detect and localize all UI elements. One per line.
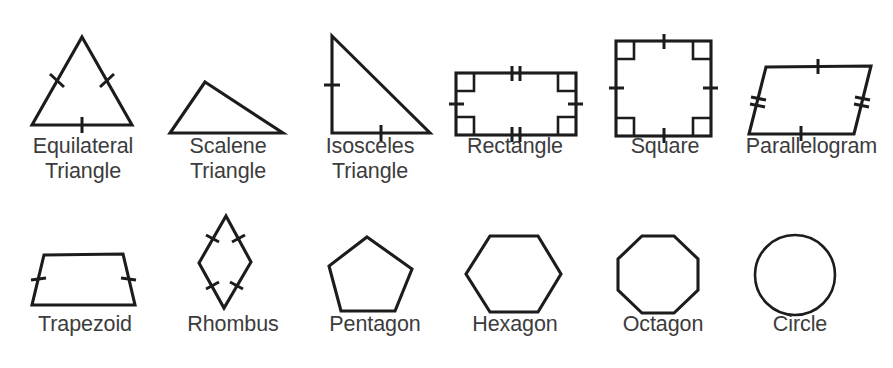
label-parallelogram: Parallelogram [730, 134, 893, 159]
pentagon-glyph [322, 230, 420, 318]
label-hexagon: Hexagon [450, 312, 580, 337]
isosceles-triangle-glyph [312, 24, 442, 139]
shape-trapezoid [20, 244, 150, 319]
octagon-glyph [610, 228, 712, 320]
hexagon-glyph [458, 228, 568, 320]
shapes-chart: Equilateral Triangle Scalene Triangle Is… [0, 0, 893, 368]
label-octagon: Octagon [598, 312, 728, 337]
shape-rhombus [185, 206, 275, 318]
square-glyph [604, 30, 724, 145]
label-rectangle: Rectangle [440, 134, 590, 159]
shape-octagon [610, 228, 712, 320]
shape-isosceles-triangle [312, 24, 442, 139]
shape-hexagon [458, 228, 568, 320]
shape-pentagon [322, 230, 420, 318]
trapezoid-glyph [20, 244, 150, 319]
label-isosceles-triangle: Isosceles Triangle [300, 134, 440, 184]
rectangle-glyph [446, 62, 586, 144]
shape-equilateral-triangle [18, 28, 148, 138]
shape-rectangle [446, 62, 586, 144]
equilateral-triangle-glyph [18, 28, 148, 138]
label-pentagon: Pentagon [310, 312, 440, 337]
shape-square [604, 30, 724, 145]
label-rhombus: Rhombus [168, 312, 298, 337]
scalene-triangle-glyph [160, 70, 295, 140]
circle-glyph [748, 228, 846, 324]
rhombus-glyph [185, 206, 275, 318]
shape-circle [748, 228, 846, 324]
label-equilateral-triangle: Equilateral Triangle [2, 134, 164, 184]
shape-scalene-triangle [160, 70, 295, 140]
label-trapezoid: Trapezoid [10, 312, 160, 337]
label-circle: Circle [735, 312, 865, 337]
label-square: Square [600, 134, 730, 159]
label-scalene-triangle: Scalene Triangle [163, 134, 293, 184]
